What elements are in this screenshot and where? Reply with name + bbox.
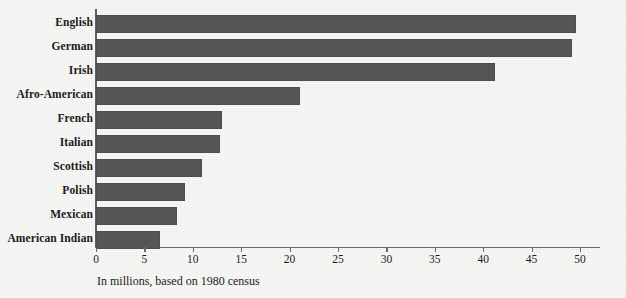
- x-tick-label: 30: [381, 253, 393, 265]
- x-tick-mark: [96, 247, 97, 252]
- bar-row: [96, 85, 580, 109]
- x-tick-mark: [532, 247, 533, 252]
- x-tick-label: 40: [477, 253, 489, 265]
- bar-row: [96, 133, 580, 157]
- x-tick-label: 0: [93, 253, 99, 265]
- x-tick-mark: [241, 247, 242, 252]
- category-label: English: [0, 16, 93, 28]
- category-label: French: [0, 112, 93, 124]
- category-label: American Indian: [0, 232, 93, 244]
- axis-caption: In millions, based on 1980 census: [97, 274, 260, 289]
- bar: [96, 183, 185, 201]
- bar: [96, 159, 202, 177]
- bar: [96, 39, 572, 57]
- bar-row: [96, 109, 580, 133]
- x-tick-mark: [483, 247, 484, 252]
- x-tick-mark: [435, 247, 436, 252]
- category-label: Scottish: [0, 160, 93, 172]
- bar-row: [96, 157, 580, 181]
- x-tick-mark: [193, 247, 194, 252]
- x-tick-label: 25: [332, 253, 344, 265]
- x-tick-label: 20: [284, 253, 296, 265]
- bar-row: [96, 13, 580, 37]
- category-label: Irish: [0, 64, 93, 76]
- bar: [96, 207, 177, 225]
- plot-area: [96, 13, 580, 241]
- x-tick-label: 35: [429, 253, 441, 265]
- category-label: Afro-American: [0, 88, 93, 100]
- bar: [96, 135, 220, 153]
- bar-row: [96, 181, 580, 205]
- bar: [96, 15, 576, 33]
- category-label: Italian: [0, 136, 93, 148]
- x-tick-mark: [338, 247, 339, 252]
- x-tick-label: 50: [574, 253, 586, 265]
- x-tick-label: 10: [187, 253, 199, 265]
- bar: [96, 231, 160, 249]
- bar-row: [96, 205, 580, 229]
- bar: [96, 63, 495, 81]
- category-label: Mexican: [0, 208, 93, 220]
- x-tick-label: 45: [526, 253, 538, 265]
- category-label: German: [0, 40, 93, 52]
- bar: [96, 87, 300, 105]
- x-tick-label: 15: [235, 253, 247, 265]
- x-tick-mark: [580, 247, 581, 252]
- x-tick-label: 5: [142, 253, 148, 265]
- category-label: Polish: [0, 184, 93, 196]
- bar: [96, 111, 222, 129]
- x-tick-mark: [144, 247, 145, 252]
- bar-row: [96, 37, 580, 61]
- bar-row: [96, 61, 580, 85]
- ancestry-bar-chart: EnglishGermanIrishAfro-AmericanFrenchIta…: [0, 0, 626, 298]
- x-tick-mark: [290, 247, 291, 252]
- x-tick-mark: [386, 247, 387, 252]
